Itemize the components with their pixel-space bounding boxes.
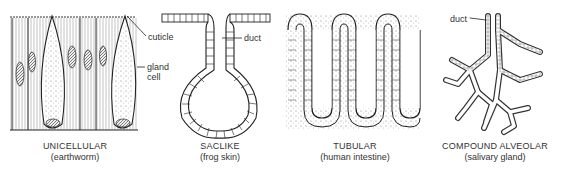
caption-subtitle: (earthworm) xyxy=(20,152,130,163)
caption-tubular: TUBULAR (human intestine) xyxy=(295,141,415,163)
cuticle-label: cuticle xyxy=(148,32,174,42)
caption-unicellular: UNICELLULAR (earthworm) xyxy=(20,141,130,163)
gland-cell-label-line2: cell xyxy=(147,72,161,82)
caption-title: COMPOUND ALVEOLAR xyxy=(430,141,560,152)
caption-title: TUBULAR xyxy=(295,141,415,152)
caption-title: UNICELLULAR xyxy=(20,141,130,152)
gland-cell-label-line1: gland xyxy=(147,62,169,72)
caption-subtitle: (human intestine) xyxy=(295,152,415,163)
compound-duct-label: duct xyxy=(450,14,467,24)
caption-title: SACLIKE xyxy=(165,141,275,152)
tubular-illustration xyxy=(286,14,420,130)
caption-subtitle: (frog skin) xyxy=(165,152,275,163)
unicellular-illustration xyxy=(10,16,146,130)
caption-saclike: SACLIKE (frog skin) xyxy=(165,141,275,163)
caption-subtitle: (salivary gland) xyxy=(430,152,560,163)
gland-cell-label: gland cell xyxy=(147,62,169,82)
caption-compound-alveolar: COMPOUND ALVEOLAR (salivary gland) xyxy=(430,141,560,163)
saclike-duct-label: duct xyxy=(244,33,261,43)
compound-alveolar-illustration xyxy=(446,16,540,132)
